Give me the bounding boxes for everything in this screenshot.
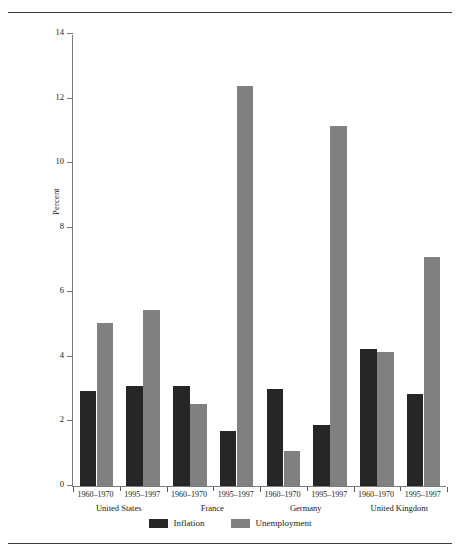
y-axis-label: Percent [51,95,61,215]
x-period-label-3: 1995–1997 [212,490,259,499]
y-tick-label: 10 [56,156,65,167]
x-period-label-6: 1960–1970 [353,490,400,499]
y-tick-mark [67,33,73,34]
bar-series-container [73,35,446,486]
x-period-label-1: 1995–1997 [119,490,166,499]
x-country-label-united-kingdom: United Kingdom [353,503,447,513]
legend-swatch-inflation [149,519,168,528]
y-tick-0: 0 [47,485,73,486]
y-tick-6: 6 [47,291,73,292]
bar-inflation-1 [126,386,143,486]
bar-unemployment-4 [284,451,301,487]
bar-inflation-7 [407,394,424,486]
x-period-label-7: 1995–1997 [399,490,446,499]
y-tick-label: 14 [56,27,65,38]
bar-inflation-3 [220,431,237,486]
y-tick-label: 8 [60,221,64,232]
legend-label-inflation: Inflation [174,518,205,528]
legend-swatch-unemployment [231,519,250,528]
top-rule [8,12,452,13]
x-period-label-0: 1960–1970 [72,490,119,499]
y-tick-label: 4 [60,350,64,361]
bar-unemployment-6 [377,352,394,486]
x-period-label-2: 1960–1970 [166,490,213,499]
x-group-separator [447,487,448,492]
y-tick-label: 6 [60,285,64,296]
bar-inflation-2 [173,386,190,486]
x-period-label-4: 1960–1970 [259,490,306,499]
bar-inflation-5 [313,425,330,486]
plot-area: Percent 02468101214 [72,35,446,487]
bar-unemployment-2 [190,404,207,486]
bar-inflation-0 [80,391,97,486]
bar-unemployment-0 [97,323,114,486]
bar-inflation-4 [267,389,284,486]
x-country-label-france: France [166,503,260,513]
bar-inflation-6 [360,349,377,486]
legend-label-unemployment: Unemployment [256,518,312,528]
figure-page: Percent 02468101214 1960–19701995–199719… [0,0,460,554]
y-tick-label: 0 [60,479,64,490]
y-tick-label: 12 [56,92,65,103]
bar-unemployment-1 [143,310,160,486]
bar-unemployment-3 [237,86,254,486]
x-country-label-united-states: United States [72,503,166,513]
y-tick-label: 2 [60,414,64,425]
y-tick-2: 2 [47,420,73,421]
legend-item-inflation: Inflation [149,518,205,528]
y-tick-4: 4 [47,356,73,357]
x-country-label-germany: Germany [259,503,353,513]
y-tick-12: 12 [47,98,73,99]
legend-item-unemployment: Unemployment [231,518,312,528]
bar-unemployment-7 [424,257,441,486]
bar-unemployment-5 [330,126,347,486]
y-tick-8: 8 [47,227,73,228]
x-period-label-5: 1995–1997 [306,490,353,499]
y-tick-10: 10 [47,162,73,163]
chart-legend: Inflation Unemployment [0,518,460,528]
bottom-rule [8,543,452,544]
y-tick-14: 14 [47,33,73,34]
